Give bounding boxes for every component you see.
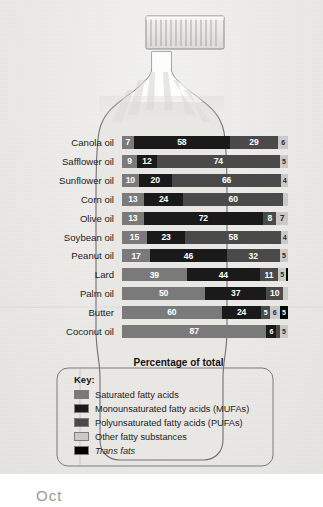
bar-segment-pufa: 60 bbox=[183, 193, 283, 206]
legend-label: Monounsaturated fatty acids (MUFAs) bbox=[95, 404, 249, 414]
bar-segment-sat: 87 bbox=[122, 325, 266, 338]
bar-category-label: Lard bbox=[0, 268, 122, 281]
chart-bar-row: Butter6024565 bbox=[122, 306, 288, 319]
bar-category-label: Safflower oil bbox=[0, 155, 122, 168]
bar-category-label: Palm oil bbox=[0, 287, 122, 300]
legend-item: Other fatty substances bbox=[74, 430, 273, 443]
bar-segment-sat: 50 bbox=[122, 287, 205, 300]
bar-segment-mufa: 72 bbox=[144, 212, 264, 225]
bar-segment-other: 5 bbox=[280, 249, 288, 262]
bar-segment-other: 5 bbox=[280, 325, 288, 338]
bar-segment-sat: 7 bbox=[122, 136, 134, 149]
bar-segment-sat: 17 bbox=[122, 249, 150, 262]
legend-swatch-sat bbox=[74, 390, 89, 399]
bottom-cut-text: Oct bbox=[36, 489, 62, 501]
bar-segment-mufa: 6 bbox=[266, 325, 276, 338]
bar-category-label: Soybean oil bbox=[0, 231, 122, 244]
bar-category-label: Peanut oil bbox=[0, 249, 122, 262]
legend-swatch-other bbox=[74, 432, 89, 441]
bar-category-label: Butter bbox=[0, 306, 122, 319]
bar-segment-mufa: 58 bbox=[134, 136, 230, 149]
bar-segment-pufa: 10 bbox=[266, 287, 283, 300]
bar-segment-sat: 10 bbox=[122, 174, 139, 187]
bar-segment-other: 5 bbox=[278, 268, 286, 281]
bar-segment-sat: 9 bbox=[122, 155, 137, 168]
chart-bar-row: Olive oil137287 bbox=[122, 212, 288, 225]
bar-segment-mufa: 24 bbox=[222, 306, 262, 319]
bar-segment-sat: 39 bbox=[122, 268, 187, 281]
bar-category-label: Corn oil bbox=[0, 193, 122, 206]
bar-segment-pufa: 32 bbox=[227, 249, 280, 262]
legend-item: Saturated fatty acids bbox=[74, 388, 273, 401]
bar-segment-mufa: 20 bbox=[139, 174, 172, 187]
legend-item: Monounsaturated fatty acids (MUFAs) bbox=[74, 402, 273, 415]
bar-segment-mufa: 37 bbox=[205, 287, 266, 300]
bar-segment-sat: 60 bbox=[122, 306, 222, 319]
chart-bar-row: Peanut oil1746325 bbox=[122, 249, 288, 262]
legend-item: Trans fats bbox=[74, 444, 273, 457]
axis-title-text: Percentage of total bbox=[133, 357, 223, 368]
legend-item: Polyunsaturated fatty acids (PUFAs) bbox=[74, 416, 273, 429]
bar-category-label: Olive oil bbox=[0, 212, 122, 225]
bar-segment-trans: 5 bbox=[280, 306, 288, 319]
legend-label: Trans fats bbox=[95, 446, 135, 456]
bar-segment-other: 4 bbox=[281, 174, 288, 187]
bar-segment-pufa: 8 bbox=[263, 212, 276, 225]
bar-segment-pufa: 11 bbox=[260, 268, 278, 281]
bar-segment-mufa: 23 bbox=[147, 231, 185, 244]
legend-label: Other fatty substances bbox=[95, 432, 187, 442]
bar-category-label: Coconut oil bbox=[0, 325, 122, 338]
bar-segment-other: 5 bbox=[280, 155, 288, 168]
legend-swatch-pufa bbox=[74, 418, 89, 427]
bar-segment-sat: 15 bbox=[122, 231, 147, 244]
chart-bar-row: Soybean oil1523584 bbox=[122, 231, 288, 244]
legend-swatch-mufa bbox=[74, 404, 89, 413]
legend-label: Saturated fatty acids bbox=[95, 390, 179, 400]
legend-title: Key: bbox=[74, 374, 273, 385]
bar-segment-pufa: 58 bbox=[185, 231, 281, 244]
bar-segment-pufa: 29 bbox=[230, 136, 278, 149]
bar-segment-other: 7 bbox=[276, 212, 288, 225]
bar-segment-pufa: 66 bbox=[172, 174, 282, 187]
bar-segment-other bbox=[283, 193, 288, 206]
chart-bar-row: Lard3944115 bbox=[122, 268, 288, 281]
chart-bar-row: Palm oil503710 bbox=[122, 287, 288, 300]
bar-segment-pufa: 74 bbox=[157, 155, 280, 168]
bar-segment-sat: 13 bbox=[122, 212, 144, 225]
bar-segment-mufa: 44 bbox=[187, 268, 260, 281]
chart-bar-row: Canola oil758296 bbox=[122, 136, 288, 149]
chart-bar-row: Coconut oil8765 bbox=[122, 325, 288, 338]
bar-segment-mufa: 24 bbox=[144, 193, 184, 206]
legend: Key: Saturated fatty acidsMonounsaturate… bbox=[57, 374, 273, 458]
legend-label: Polyunsaturated fatty acids (PUFAs) bbox=[95, 418, 243, 428]
bar-segment-other bbox=[283, 287, 288, 300]
bar-segment-pufa: 5 bbox=[261, 306, 269, 319]
chart-bar-row: Sunflower oil1020664 bbox=[122, 174, 288, 187]
bar-segment-trans bbox=[286, 268, 288, 281]
legend-items: Saturated fatty acidsMonounsaturated fat… bbox=[57, 388, 273, 457]
axis-title: Percentage of total bbox=[0, 357, 323, 368]
bar-segment-mufa: 12 bbox=[137, 155, 157, 168]
bar-segment-other: 4 bbox=[281, 231, 288, 244]
bar-segment-mufa: 46 bbox=[150, 249, 226, 262]
bar-segment-other: 6 bbox=[278, 136, 288, 149]
chart-bar-row: Safflower oil912745 bbox=[122, 155, 288, 168]
legend-swatch-trans bbox=[74, 446, 89, 455]
bar-category-label: Canola oil bbox=[0, 136, 122, 149]
bar-segment-other: 6 bbox=[270, 306, 280, 319]
bar-category-label: Sunflower oil bbox=[0, 174, 122, 187]
bar-segment-sat: 13 bbox=[122, 193, 144, 206]
chart-bar-row: Corn oil132460 bbox=[122, 193, 288, 206]
